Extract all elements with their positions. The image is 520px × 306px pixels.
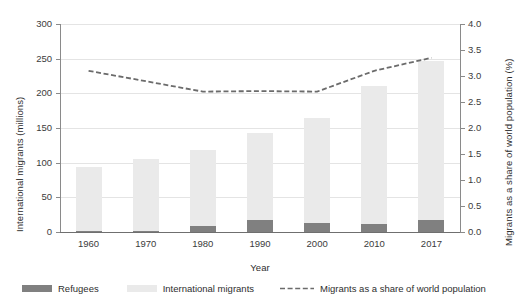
y-axis-right-tick [461, 24, 465, 25]
y-axis-right-labels: 0.00.51.01.52.02.53.03.54.0 [468, 0, 504, 306]
x-axis-tick-label: 1980 [178, 238, 228, 249]
y-axis-right-tick [461, 102, 465, 103]
legend-label-international-migrants: International migrants [163, 283, 254, 294]
legend-item-international-migrants[interactable]: International migrants [127, 283, 254, 294]
y-axis-right-tick-label: 2.0 [468, 122, 502, 133]
y-axis-left-tick-label: 250 [22, 53, 52, 64]
x-axis-tick-label: 1960 [64, 238, 114, 249]
x-axis-tick-label: 1970 [121, 238, 171, 249]
y-axis-right-tick [461, 76, 465, 77]
y-axis-left-tick-label: 50 [22, 191, 52, 202]
chart-container: International migrants (millions) Migran… [0, 0, 520, 306]
x-axis-tick-label: 2017 [406, 238, 456, 249]
y-axis-left-labels: 050100150200250300 [18, 0, 52, 306]
dashed-line-swatch-icon [280, 284, 314, 293]
y-axis-right-tick-label: 1.5 [468, 148, 502, 159]
y-axis-left-tick-label: 100 [22, 157, 52, 168]
y-axis-right-tick-label: 0.0 [468, 226, 502, 237]
legend-label-share: Migrants as a share of world population [320, 283, 486, 294]
y-axis-right-tick [461, 128, 465, 129]
y-axis-right-tick-label: 1.0 [468, 174, 502, 185]
legend-item-share[interactable]: Migrants as a share of world population [280, 283, 486, 294]
y-axis-right-title: Migrants as a share of world population … [503, 0, 514, 246]
legend-label-refugees: Refugees [58, 283, 99, 294]
y-axis-right-tick-label: 4.0 [468, 18, 502, 29]
international-migrants-swatch-icon [127, 285, 157, 292]
y-axis-left-tick-label: 150 [22, 122, 52, 133]
y-axis-right-tick [461, 154, 465, 155]
x-axis-tick-label: 2010 [349, 238, 399, 249]
y-axis-right-tick [461, 232, 465, 233]
y-axis-right-tick [461, 50, 465, 51]
x-axis-title: Year [0, 262, 520, 273]
legend-item-refugees[interactable]: Refugees [22, 283, 99, 294]
y-axis-left-tick-label: 300 [22, 18, 52, 29]
y-axis-right-tick-label: 3.0 [468, 70, 502, 81]
chart-legend: Refugees International migrants Migrants… [0, 278, 520, 298]
y-axis-left-tick-label: 0 [22, 226, 52, 237]
y-axis-left-tick-label: 200 [22, 87, 52, 98]
y-axis-right-tick [461, 180, 465, 181]
y-axis-right-tick-label: 3.5 [468, 44, 502, 55]
share-line-path [89, 58, 432, 92]
y-axis-right-tick [461, 206, 465, 207]
y-axis-left-tick [56, 232, 60, 233]
x-axis-tick-label: 1990 [235, 238, 285, 249]
y-axis-right-tick-label: 2.5 [468, 96, 502, 107]
refugees-swatch-icon [22, 285, 52, 292]
x-axis-tick-label: 2000 [292, 238, 342, 249]
share-line-series [60, 24, 460, 232]
y-axis-right-tick-label: 0.5 [468, 200, 502, 211]
x-axis-line [60, 232, 460, 233]
